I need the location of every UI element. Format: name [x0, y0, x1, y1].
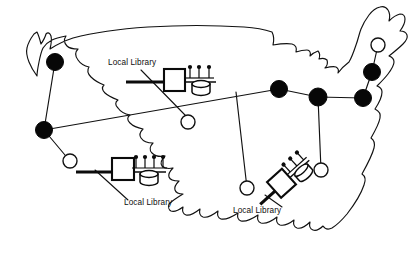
disk-icon-northwest[interactable]: [192, 81, 210, 96]
link-seattle-bay: [44, 62, 55, 130]
library-label-southwest: Local Library: [124, 198, 173, 207]
leaf-node-northeast-upper[interactable]: [371, 38, 385, 52]
terminal-head-3[interactable]: [207, 65, 211, 69]
library-cluster-southwest: [76, 155, 167, 186]
terminal-head-4[interactable]: [161, 155, 165, 159]
disk-icon-southwest[interactable]: [140, 171, 158, 186]
hub-node-cleveland[interactable]: [309, 88, 327, 106]
library-label-southeast: Local Library: [233, 206, 282, 215]
contiguous-us-border: [27, 7, 408, 231]
terminal-head-3[interactable]: [152, 155, 156, 159]
library-label-northwest: Local Library: [108, 58, 157, 67]
disk-top-northwest: [192, 81, 210, 88]
hub-node-chicago[interactable]: [271, 81, 288, 98]
disk-top-southwest: [140, 171, 158, 178]
terminal-head-1[interactable]: [134, 155, 138, 159]
leaf-node-northwest-library[interactable]: [181, 115, 195, 129]
leaf-node-southeast-library[interactable]: [240, 181, 254, 195]
leaf-node-mid-atlantic[interactable]: [314, 163, 328, 177]
hub-node-seattle[interactable]: [47, 54, 64, 71]
terminal-head-2[interactable]: [143, 155, 147, 159]
server-box-northwest[interactable]: [164, 69, 185, 91]
us-coastline-outline: [27, 7, 408, 231]
leaf-node-southwest-library[interactable]: [63, 154, 77, 168]
hub-node-bay-area[interactable]: [36, 122, 53, 139]
hub-node-boston[interactable]: [364, 64, 381, 81]
terminal-head-2[interactable]: [197, 65, 201, 69]
server-box-southwest[interactable]: [112, 158, 134, 180]
map-canvas: Local Library Local Library Local Librar…: [0, 0, 420, 278]
terminal-head-1[interactable]: [188, 65, 192, 69]
us-library-network-map: Local Library Local Library Local Librar…: [0, 0, 420, 278]
hub-node-new-york[interactable]: [355, 90, 372, 107]
